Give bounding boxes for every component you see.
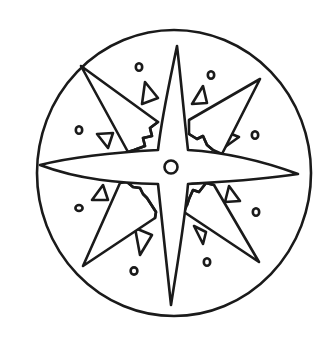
dot-icon [208, 71, 214, 79]
compass-rose-drawing: Compass rose line drawing [0, 0, 333, 340]
northwest-point [81, 66, 158, 152]
compass-rose-icon [0, 0, 333, 340]
dot-icon [131, 267, 138, 274]
dot-icon [253, 208, 259, 216]
dot-icon [75, 205, 82, 211]
southeast-point [184, 183, 259, 262]
dot-icon [252, 131, 258, 139]
center-ring [165, 161, 178, 174]
dot-icon [76, 126, 82, 134]
dot-icon [204, 258, 210, 266]
cardinal-star [40, 46, 298, 305]
dot-icon [136, 63, 142, 71]
